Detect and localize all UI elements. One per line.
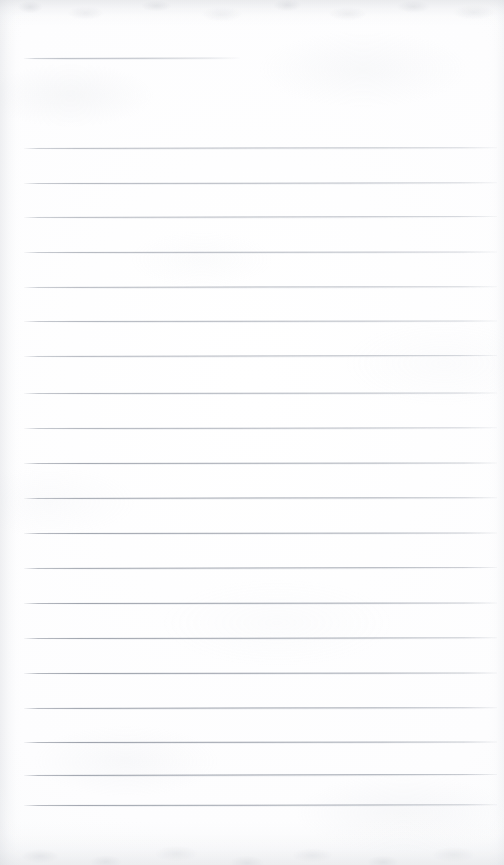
ruled-line bbox=[24, 393, 497, 394]
ruled-line bbox=[24, 355, 497, 357]
ruled-line bbox=[24, 532, 497, 534]
ruled-line bbox=[24, 182, 497, 184]
ruled-line bbox=[24, 286, 497, 288]
ruled-line bbox=[24, 463, 497, 464]
ruled-line bbox=[24, 603, 497, 604]
ruled-line bbox=[24, 147, 497, 149]
notebook-page-scan bbox=[0, 0, 504, 865]
ruled-line bbox=[24, 427, 497, 429]
ruled-line bbox=[24, 567, 497, 569]
ruled-line bbox=[24, 497, 497, 499]
ruled-line bbox=[24, 707, 497, 709]
ruled-line bbox=[24, 637, 497, 639]
ruled-lines-group bbox=[0, 0, 504, 865]
ruled-line bbox=[24, 216, 497, 218]
ruled-line bbox=[24, 741, 497, 743]
ruled-line bbox=[24, 774, 497, 776]
ruled-line bbox=[24, 320, 497, 322]
ruled-line bbox=[24, 252, 497, 253]
ruled-line bbox=[24, 673, 497, 674]
ruled-line bbox=[24, 804, 497, 806]
